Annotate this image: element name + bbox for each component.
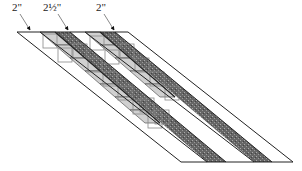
dark-strip-1 (55, 32, 226, 162)
dimension-label-1: 2" (12, 1, 22, 13)
dimension-label-2: 2½" (43, 1, 61, 13)
dimension-label-3: 2" (96, 1, 106, 13)
strip-piecing-diagram (0, 0, 302, 171)
strip-set-outline (17, 32, 293, 162)
dimension-arrows (20, 14, 114, 30)
